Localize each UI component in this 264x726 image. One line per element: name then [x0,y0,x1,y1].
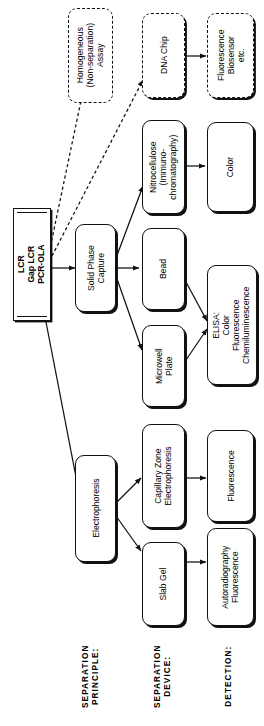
edge-bead-to-elisa [186,282,207,321]
node-dna-chip[interactable]: DNA Chip [142,13,185,98]
node-slab-gel[interactable]: Slab Gel [142,542,185,626]
caption-detection: DETECTION: [206,630,254,722]
node-fluorescence-biosensor[interactable]: FluorescenceBiosensoretc. [207,13,254,98]
node-autoradiography-label: AutoradiographyFluorescence [220,545,240,608]
flowchart-canvas: LCRGap LCRPCR-OLA Homogeneous(Non-separa… [0,0,264,726]
node-electrophoresis-label: Electrophoresis [90,479,100,538]
node-dna-chip-label: DNA Chip [158,37,168,75]
node-autoradiography[interactable]: AutoradiographyFluorescence [207,528,254,626]
node-fluorescence-biosensor-label: FluorescenceBiosensoretc. [215,30,245,82]
caption-separation-device: SEPARATIONDEVICE: [140,630,188,722]
edge-solidphase-to-nitrocellulose [116,186,143,258]
node-bead[interactable]: Bead [142,228,185,310]
node-fluorescence-label: Fluorescence [225,450,235,502]
node-start-label: LCRGap LCRPCR-OLA [17,245,47,284]
node-elisa-label: ELISA:ColorFluorescenceChemiluminescence [212,286,253,363]
node-electrophoresis[interactable]: Electrophoresis [75,455,116,562]
edge-solidphase-to-microwell [116,276,142,350]
node-microwell-plate[interactable]: MicrowellPlate [142,325,185,407]
node-color[interactable]: Color [207,122,254,212]
node-nitrocellulose-label: Nitrocellulose(Immuno-chromatography) [148,135,178,200]
node-color-label: Color [225,157,235,178]
node-capillary-zone-electrophoresis-label: Capillary ZoneElectrophoresis [153,446,173,505]
node-solid-phase-capture[interactable]: Solid PhaseCapture [75,224,116,312]
node-bead-label: Bead [158,259,168,279]
node-fluorescence[interactable]: Fluorescence [207,430,254,522]
caption-separation-principle: SEPARATIONPRINCIPLE: [68,630,116,722]
edge-electrophoresis-to-slabgel [116,516,141,551]
node-slab-gel-label: Slab Gel [158,568,168,601]
caption-detection-label: DETECTION: [225,645,235,706]
node-start[interactable]: LCRGap LCRPCR-OLA [13,208,51,321]
node-capillary-zone-electrophoresis[interactable]: Capillary ZoneElectrophoresis [142,424,185,528]
node-nitrocellulose[interactable]: Nitrocellulose(Immuno-chromatography) [142,120,185,214]
edge-electrophoresis-to-cze [116,478,141,503]
node-homogeneous-label: Homogeneous(Non-separation)Assay [75,23,105,87]
node-solid-phase-capture-label: Solid PhaseCapture [85,245,105,291]
caption-separation-principle-label: SEPARATIONPRINCIPLE: [82,644,103,707]
node-elisa[interactable]: ELISA:ColorFluorescenceChemiluminescence [207,265,257,385]
caption-separation-device-label: SEPARATIONDEVICE: [154,644,175,707]
node-homogeneous[interactable]: Homogeneous(Non-separation)Assay [68,8,113,103]
edge-microwell-to-elisa [186,329,207,360]
node-microwell-plate-label: MicrowellPlate [153,348,173,384]
